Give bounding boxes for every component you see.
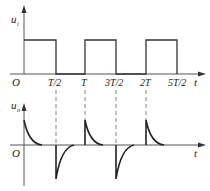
top-y-arrow-icon <box>22 5 27 13</box>
bottom-origin-label: O <box>12 147 20 159</box>
tick-label-3t-half: 3T/2 <box>104 77 123 88</box>
bottom-ylabel-sub: o <box>17 107 20 113</box>
top-x-arrow-icon <box>198 72 206 77</box>
waveform-diagram: u i O T/2 T 3T/2 2T 5T/2 t u o O t <box>0 0 210 191</box>
top-xlabel: t <box>194 76 198 88</box>
bottom-x-arrow-icon <box>198 143 206 148</box>
negative-spike-3t-half <box>116 145 134 179</box>
positive-spike-2t <box>146 120 164 145</box>
guide-lines <box>56 90 146 145</box>
bottom-plot: u o O t <box>10 99 206 186</box>
tick-label-t-half: T/2 <box>48 77 61 88</box>
negative-spike-t-half <box>56 145 74 179</box>
top-plot: u i O T/2 T 3T/2 2T 5T/2 t <box>10 5 206 88</box>
top-ylabel-sub: i <box>17 21 19 27</box>
top-origin-label: O <box>12 76 20 88</box>
tick-label-5t-half: 5T/2 <box>168 77 186 88</box>
bottom-y-arrow-icon <box>22 103 27 111</box>
positive-spike-t <box>85 120 103 145</box>
square-wave-input <box>24 40 177 74</box>
positive-spike-0 <box>24 120 42 145</box>
tick-label-t: T <box>81 77 88 88</box>
bottom-xlabel: t <box>194 147 198 159</box>
tick-label-2t: 2T <box>140 77 152 88</box>
